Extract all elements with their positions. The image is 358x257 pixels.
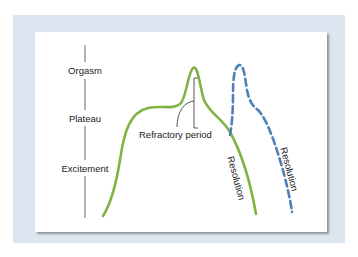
axis-label-excitement: Excitement xyxy=(62,162,109,175)
axis-label-orgasm: Orgasm xyxy=(68,64,102,77)
axis-label-plateau: Plateau xyxy=(69,112,101,125)
refractory-period-label: Refractory period xyxy=(139,129,212,140)
